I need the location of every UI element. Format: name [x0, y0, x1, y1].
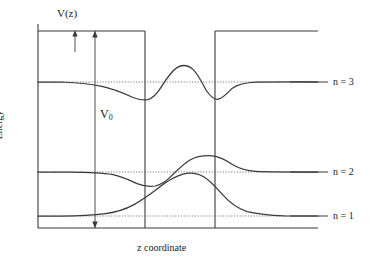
wavefunction-curves [38, 66, 318, 216]
potential-label: V(z) [57, 8, 77, 19]
v0-arrowhead-bottom [92, 222, 98, 228]
axes-group [38, 24, 318, 228]
wavefunction-n1 [38, 173, 318, 216]
level-label-n1: n = 1 [333, 211, 354, 221]
level-label-n3: n = 3 [333, 77, 354, 87]
barrier-height-subscript: 0 [109, 113, 113, 122]
barrier-height-label: V0 [100, 108, 113, 122]
level-label-connectors [290, 82, 328, 216]
wavefunction-n3 [38, 66, 318, 100]
wavefunction-n2 [38, 156, 318, 187]
v0-arrowhead-top [92, 31, 98, 37]
vz-pointer-arrow [72, 30, 77, 52]
v0-measure-arrow [92, 31, 98, 228]
level-label-n2: n = 2 [333, 167, 354, 177]
x-axis-label: z coordinate [137, 243, 186, 253]
quantum-well-figure: V(z) V0 Energy z coordinate n = 3 n = 2 … [0, 0, 370, 266]
barrier-height-symbol: V [100, 107, 109, 121]
plot-canvas [0, 0, 370, 266]
energy-baselines [38, 82, 318, 216]
potential-profile [38, 31, 318, 228]
y-axis-label: Energy [0, 111, 4, 140]
